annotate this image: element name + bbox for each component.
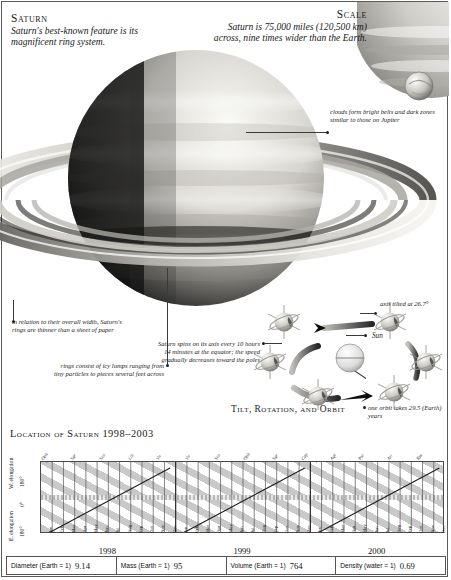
chart-month-label: Dec [172,525,177,533]
chart-year-label: 1998 [99,546,116,556]
stat-label: Diameter (Earth = 1) [11,562,71,569]
y-label-180-top: 180° [19,476,25,487]
stat-label: Density (water = 1) [340,562,396,569]
chart-month-label: Nov [430,525,435,533]
annotation-thin-rings-leader [13,300,14,321]
y-label-0: 0° [19,502,25,507]
chart-month-label: Sep [407,526,412,533]
chart-month-label: Nov [295,525,300,533]
scale-heading: Scale [207,8,367,20]
chart-month-label: May [228,524,233,533]
orbit-diagram [222,300,451,410]
page-title: Saturn [11,12,161,24]
stat-cell: Volume (Earth = 1)764 [226,556,337,575]
chart-month-label: May [362,524,367,533]
stat-cell: Diameter (Earth = 1)9.14 [6,556,117,575]
chart-constellation-label: Cap [300,452,309,461]
chart-month-label: Oct [149,526,154,533]
chart-constellation-label: Sgr [69,453,77,461]
chart-month-label: Jun [374,526,379,533]
chart-month-label: Apr [216,526,221,533]
chart-month-label: Mar [71,525,76,533]
scale-block: Scale Saturn is 75,000 miles (120,500 km… [207,8,367,44]
chart-constellation-label: Vir [184,454,191,461]
chart-month-label: Sep [138,526,143,533]
chart-constellation-label: Sco [98,453,106,461]
chart-month-label: Jan [317,527,322,533]
chart-month-label: Jun [239,526,244,533]
stat-value: 764 [290,561,303,571]
planet-stats-table: Diameter (Earth = 1)9.14Mass (Earth = 1)… [6,556,445,575]
chart-top-labels: OphSgrScoLibVirVirScoOphSgrCapAqrPscAriT… [40,443,444,461]
chart-month-label: Feb [194,526,199,533]
stat-value: 95 [174,561,183,571]
y-label-w-elongation: W. elongation [8,458,14,489]
chart-constellation-label: Lib [127,453,135,461]
chart-constellation-label: Psc [357,453,365,461]
chart-constellation-label: Sco [213,453,221,461]
chart-constellation-label: Oph [40,452,49,461]
chart-title: Location of Saturn 1998–2003 [10,428,154,439]
chart-month-label: Oct [284,526,289,533]
chart-constellation-label: Tau [415,453,423,461]
chart-month-label: Nov [160,525,165,533]
chart-month-label: Jul [385,527,390,533]
stat-label: Mass (Earth = 1) [121,562,170,569]
annotation-icy-lumps: rings consist of icy lumps ranging from … [52,362,164,378]
chart-month-label: Feb [329,526,334,533]
chart-plot-area [40,461,444,533]
chart-constellation-label: Ari [386,453,394,461]
chart-constellation-label: Sgr [271,453,279,461]
chart-month-label: Jul [115,527,120,533]
stat-cell: Density (water = 1)0.69 [335,556,446,575]
infographic-page: Saturn Saturn's best-known feature is it… [0,0,451,580]
chart-month-label: Aug [396,525,401,533]
chart-year-label: 1999 [233,546,250,556]
scale-text: Saturn is 75,000 miles (120,500 km) acro… [207,21,367,44]
chart-month-label: Jul [250,527,255,533]
chart-month-label: Feb [59,526,64,533]
chart-month-label: Mar [205,525,210,533]
location-chart: W. elongation 180° 0° E. elongation 180°… [8,443,444,548]
chart-month-label: Aug [261,525,266,533]
chart-month-label: Apr [351,526,356,533]
chart-month-label: Sep [273,526,278,533]
chart-constellation-label: Aqr [329,452,337,461]
saturn-intro-text: Saturn's best-known feature is its magni… [11,25,161,48]
annotation-clouds: clouds form bright belts and dark zones … [330,108,448,124]
chart-month-label: Jan [183,527,188,533]
stat-label: Volume (Earth = 1) [231,562,286,569]
stat-value: 9.14 [75,561,90,571]
annotation-thin-rings: in relation to their overall width, Satu… [12,318,132,334]
chart-month-label: Mar [340,525,345,533]
chart-year-label: 2000 [368,546,385,556]
chart-month-label: Oct [418,526,423,533]
stat-cell: Mass (Earth = 1)95 [116,556,227,575]
chart-month-label: Dec [306,525,311,533]
chart-month-label: May [93,524,98,533]
chart-month-label: Dec [441,525,446,533]
chart-constellation-label: Vir [155,454,162,461]
y-label-e-elongation: E. elongation [8,511,14,541]
annotation-clouds-dot [326,131,329,134]
chart-elongation-lines [41,462,444,533]
chart-month-label: Apr [82,526,87,533]
annotation-clouds-leader [246,132,326,133]
chart-constellation-label: Oph [242,452,251,461]
chart-month-label: Jun [104,526,109,533]
tilt-rotation-orbit-title: Tilt, Rotation, and Orbit [222,404,354,415]
stat-value: 0.69 [400,561,415,571]
chart-month-label: Jan [48,527,53,533]
chart-month-label: Aug [127,525,132,533]
y-label-180-bottom: 180° [19,526,25,537]
saturn-title-block: Saturn Saturn's best-known feature is it… [11,12,161,48]
scale-comparison-illustration [357,2,449,107]
